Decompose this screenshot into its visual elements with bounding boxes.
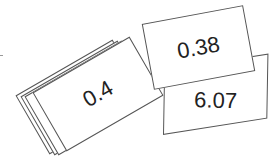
card-value: 6.07: [164, 87, 266, 115]
card-value: 0.4: [44, 55, 152, 133]
card-value: 0.38: [146, 26, 250, 70]
stray-tick-mark: [0, 55, 3, 56]
